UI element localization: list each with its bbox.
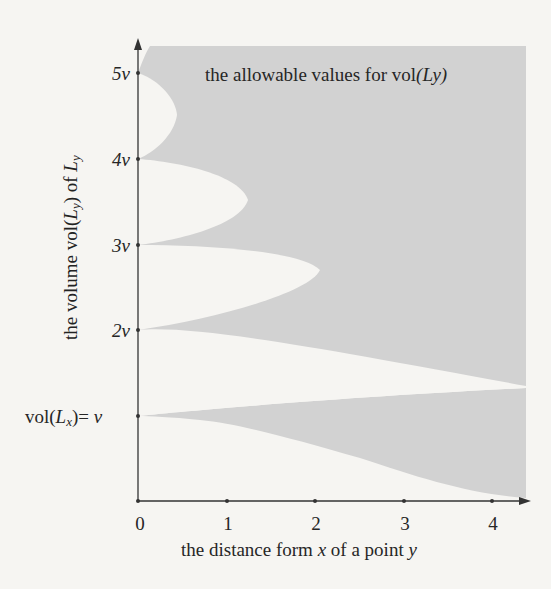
x-symbol: x [318, 539, 326, 560]
y-label-mid: ) of [60, 172, 81, 204]
v-symbol: v [94, 406, 102, 427]
region-label: the allowable values for vol(Ly) [205, 65, 447, 84]
vol-text: vol( [25, 406, 56, 427]
L-symbol: L [56, 406, 67, 427]
x-axis-arrow-icon [519, 497, 531, 505]
equals-text: )= [72, 406, 94, 427]
y-axis-label: the volume vol(Ly) of Ly [60, 155, 82, 340]
x-axis-label: the distance form x of a point y [181, 540, 417, 559]
volume-diagram: the allowable values for vol(Ly) 5v 4v 3… [0, 0, 551, 589]
region-label-text: the allowable values for vol [205, 64, 416, 85]
L-symbol: L [60, 209, 81, 220]
diagram-canvas [0, 0, 551, 589]
L-symbol: L [60, 161, 81, 172]
subscript-y: y [432, 64, 440, 85]
y-axis-arrow-icon [134, 38, 142, 50]
x-tick-4: 4 [483, 514, 503, 533]
y-tick-5v: 5v [70, 64, 130, 83]
y-label-text: the volume vol( [60, 220, 81, 340]
x-tick-2: 2 [306, 514, 326, 533]
y-symbol: y [408, 539, 416, 560]
x-label-text: the distance form [181, 539, 318, 560]
paren-close: ) [441, 64, 447, 85]
x-tick-1: 1 [218, 514, 238, 533]
x-tick-3: 3 [395, 514, 415, 533]
L-symbol: L [422, 64, 432, 85]
subscript-y: y [68, 155, 83, 161]
x-tick-0: 0 [130, 514, 150, 533]
subscript-y: y [68, 203, 83, 209]
x-label-mid: of a point [326, 539, 408, 560]
y-tick-v: vol(Lx)= v [25, 407, 102, 426]
